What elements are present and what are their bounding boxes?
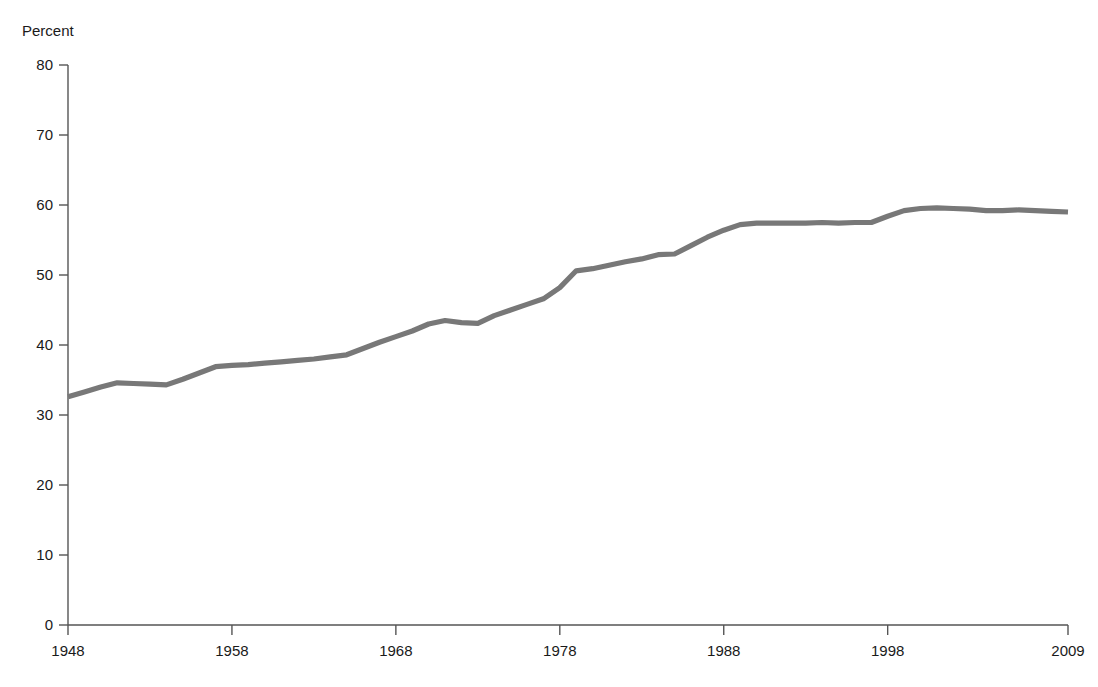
x-tick-label: 1978 xyxy=(543,642,576,659)
y-tick-label: 30 xyxy=(36,406,53,423)
data-series-group xyxy=(68,208,1068,397)
y-tick-group: 01020304050607080 xyxy=(36,56,68,633)
x-tick-label: 1968 xyxy=(379,642,412,659)
y-axis: 01020304050607080 xyxy=(36,56,68,633)
x-tick-label: 1998 xyxy=(871,642,904,659)
y-tick-label: 60 xyxy=(36,196,53,213)
y-tick-label: 10 xyxy=(36,546,53,563)
y-tick-label: 0 xyxy=(45,616,53,633)
y-tick-label: 80 xyxy=(36,56,53,73)
x-tick-label: 1988 xyxy=(707,642,740,659)
y-tick-label: 70 xyxy=(36,126,53,143)
y-tick-label: 50 xyxy=(36,266,53,283)
x-axis: 1948195819681978198819982009 xyxy=(51,625,1084,659)
x-tick-label: 2009 xyxy=(1051,642,1084,659)
data-line-percent xyxy=(68,208,1068,397)
y-tick-label: 20 xyxy=(36,476,53,493)
y-tick-label: 40 xyxy=(36,336,53,353)
chart-plot-area: 01020304050607080 1948195819681978198819… xyxy=(0,0,1098,687)
x-tick-group: 1948195819681978198819982009 xyxy=(51,625,1084,659)
x-tick-label: 1958 xyxy=(215,642,248,659)
x-tick-label: 1948 xyxy=(51,642,84,659)
line-chart: Percent 01020304050607080 19481958196819… xyxy=(0,0,1098,687)
